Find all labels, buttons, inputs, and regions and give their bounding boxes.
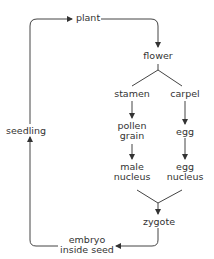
edge-zygote-embryo — [116, 228, 158, 246]
edge-seedling-plant — [30, 19, 72, 124]
node-carpel: carpel — [170, 89, 199, 99]
edge-merge-zygote — [137, 190, 182, 214]
node-egg-nucleus-line2: nucleus — [167, 172, 204, 182]
node-egg: egg — [176, 127, 194, 137]
node-zygote: zygote — [143, 217, 175, 227]
node-seedling: seedling — [6, 126, 46, 136]
edge-plant-flower — [101, 19, 158, 47]
node-embryo-line2: inside seed — [60, 245, 114, 255]
node-stamen: stamen — [114, 89, 150, 99]
node-male-nucleus-line2: nucleus — [114, 172, 151, 182]
edge-embryo-seedling — [30, 137, 58, 246]
node-plant: plant — [76, 13, 100, 23]
node-pollen-grain-line2: grain — [120, 131, 144, 141]
edge-flower-split — [132, 64, 182, 86]
node-flower: flower — [143, 51, 172, 61]
